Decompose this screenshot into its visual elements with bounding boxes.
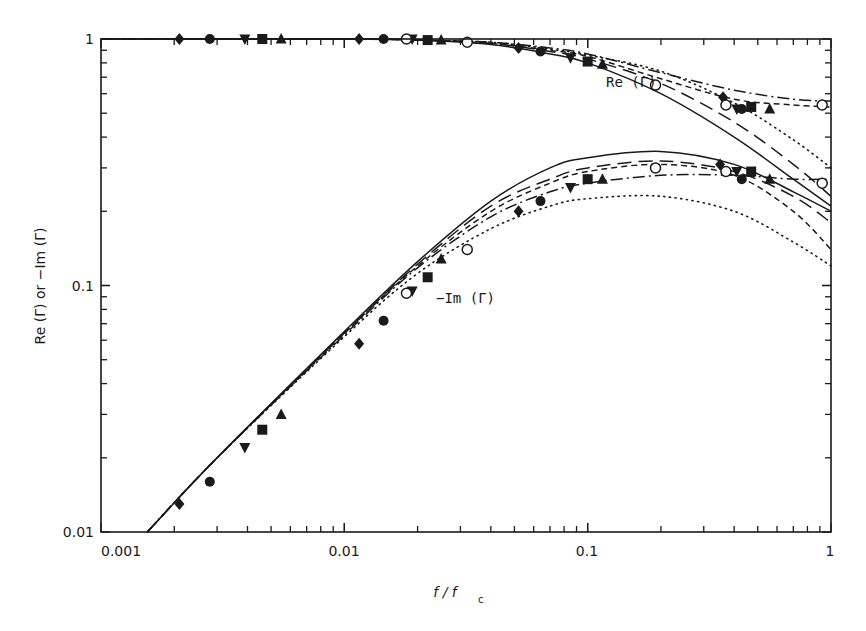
re-gamma-dashdot-curve bbox=[101, 39, 831, 101]
im-marker-open-circle bbox=[401, 288, 411, 298]
im-marker-open-circle bbox=[462, 244, 472, 254]
tick-layer bbox=[101, 39, 831, 532]
im-gamma-dashdot-curve bbox=[147, 175, 831, 532]
chart: 1 0.1 0.01 0.001 0.01 0.1 1 f / f c Re (… bbox=[0, 0, 866, 631]
re-marker-open-circle bbox=[721, 100, 731, 110]
re-marker-open-circle bbox=[817, 100, 827, 110]
x-tick-label-0.01: 0.01 bbox=[328, 543, 359, 559]
im-marker-triangle-down bbox=[565, 183, 576, 194]
im-gamma-dotted-curve bbox=[147, 196, 831, 532]
im-marker-square bbox=[423, 272, 433, 282]
x-axis-title-main: f / f bbox=[433, 584, 459, 600]
re-marker-triangle-up bbox=[764, 103, 775, 114]
re-marker-triangle-up bbox=[597, 58, 608, 69]
im-marker-open-circle bbox=[721, 167, 731, 177]
y-tick-label-0.1: 0.1 bbox=[72, 278, 94, 294]
im-gamma-solid-curve bbox=[147, 151, 831, 532]
im-marker-diamond bbox=[354, 338, 364, 350]
y-axis-title: Re (Γ) or −Im (Γ) bbox=[32, 228, 48, 345]
im-marker-circle bbox=[737, 174, 747, 184]
im-gamma-longdash-curve bbox=[147, 161, 831, 532]
re-marker-square bbox=[583, 57, 593, 67]
x-axis-title: f / f c bbox=[433, 584, 483, 605]
im-marker-diamond bbox=[514, 205, 524, 217]
x-axis-title-sub: c bbox=[478, 594, 484, 605]
im-marker-diamond bbox=[174, 498, 184, 510]
im-gamma-shortdash-curve bbox=[147, 164, 831, 532]
im-marker-triangle-up bbox=[276, 408, 287, 419]
im-marker-circle bbox=[379, 316, 389, 326]
annotation-re-gamma: Re (Γ) bbox=[606, 74, 657, 90]
marker-layer bbox=[174, 33, 827, 510]
annotation-im-gamma: −Im (Γ) bbox=[436, 290, 495, 306]
im-marker-triangle-up bbox=[436, 253, 447, 264]
im-marker-square bbox=[583, 174, 593, 184]
im-marker-open-circle bbox=[817, 178, 827, 188]
im-marker-circle bbox=[205, 477, 215, 487]
re-marker-circle bbox=[536, 46, 546, 56]
x-tick-label-1: 1 bbox=[826, 543, 835, 559]
curve-layer bbox=[101, 39, 831, 532]
im-marker-open-circle bbox=[650, 163, 660, 173]
plot-frame bbox=[101, 39, 831, 532]
im-marker-square bbox=[746, 167, 756, 177]
re-gamma-solid-curve bbox=[101, 39, 831, 206]
im-marker-triangle-up bbox=[597, 173, 608, 184]
re-marker-square bbox=[746, 102, 756, 112]
im-marker-triangle-down bbox=[239, 443, 250, 454]
x-tick-label-0.001: 0.001 bbox=[101, 543, 141, 559]
x-tick-label-0.1: 0.1 bbox=[576, 543, 598, 559]
im-marker-square bbox=[257, 425, 267, 435]
y-tick-label-0.01: 0.01 bbox=[63, 524, 94, 540]
im-marker-circle bbox=[536, 196, 546, 206]
y-tick-label-1: 1 bbox=[85, 31, 94, 47]
re-marker-square bbox=[423, 35, 433, 45]
